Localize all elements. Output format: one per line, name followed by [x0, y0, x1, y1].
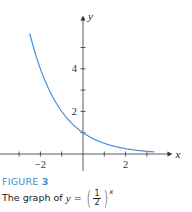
caption-equals: =	[74, 192, 82, 204]
exponential-curve	[30, 34, 155, 152]
x-axis-arrow	[167, 152, 172, 157]
figure-number: 3	[42, 176, 49, 187]
y-axis-arrow	[81, 16, 86, 21]
x-tick-label: 2	[123, 159, 128, 170]
exponent: x	[109, 186, 113, 198]
figure-caption: FIGURE 3 The graph of y = (12)x	[2, 176, 114, 208]
fraction: 12	[93, 190, 100, 207]
right-paren: )	[103, 188, 108, 208]
y-tick-label: 2	[72, 106, 77, 117]
x-axis-label: x	[174, 148, 180, 160]
y-axis-label: y	[87, 10, 93, 22]
figure-label: FIGURE 3	[2, 176, 114, 188]
graph-plot: xy −2224	[0, 0, 192, 175]
caption-text: The graph of y = (12)x	[2, 188, 114, 208]
caption-prefix: The graph of	[2, 192, 63, 204]
axes: xy	[0, 10, 180, 171]
x-tick-label: −2	[35, 159, 46, 170]
caption-var: y	[66, 192, 71, 204]
y-tick-label: 4	[72, 63, 78, 74]
denominator: 2	[94, 199, 99, 207]
left-paren: (	[86, 188, 91, 208]
